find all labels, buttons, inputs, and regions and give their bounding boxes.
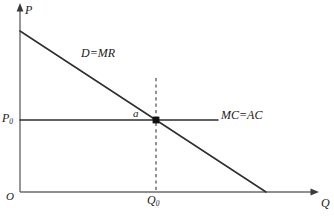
equilibrium-point-marker	[153, 117, 160, 124]
q0-tick-label: Q0	[147, 194, 159, 206]
x-axis	[20, 189, 319, 196]
equilibrium-point-label: a	[133, 108, 139, 119]
p0-subscript: 0	[9, 117, 13, 126]
x-axis-label: Q	[321, 197, 330, 209]
q0-base: Q	[147, 193, 156, 207]
origin-label: O	[6, 191, 14, 202]
cost-curve-label: MC=AC	[221, 109, 262, 121]
y-axis-label: P	[25, 4, 32, 16]
economics-diagram	[0, 0, 334, 219]
figure-canvas: P Q O P0 Q0 D=MR MC=AC a	[0, 0, 334, 219]
demand-curve-label: D=MR	[81, 47, 115, 59]
x-axis-arrowhead	[311, 189, 320, 196]
y-axis-arrowhead	[17, 3, 24, 12]
p0-tick-label: P0	[2, 112, 13, 124]
q0-subscript: 0	[156, 199, 160, 208]
